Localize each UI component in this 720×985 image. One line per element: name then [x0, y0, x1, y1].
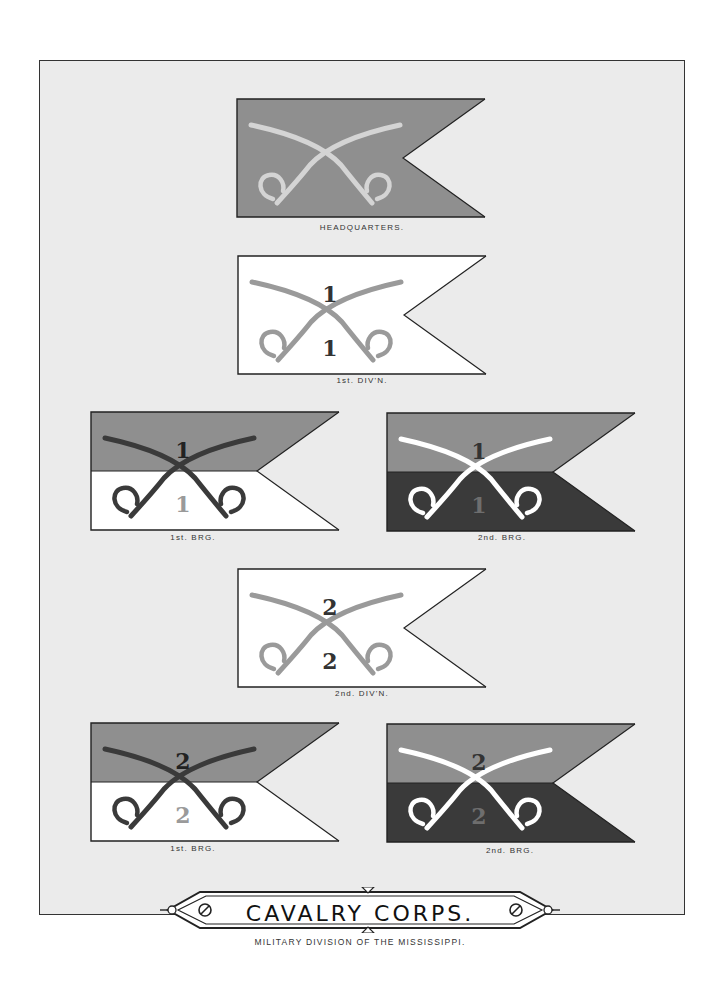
numeral-top: 2 — [322, 594, 337, 620]
caption-1st-div-2nd-brigade: 2nd. BRG. — [478, 533, 526, 542]
numeral-top: 2 — [175, 748, 190, 774]
guidon-flag-icon: 11 — [91, 412, 339, 530]
flag-headquarters — [237, 99, 485, 217]
numeral-bottom: 1 — [175, 491, 190, 517]
caption-2nd-div-1st-brigade: 1st. BRG. — [170, 844, 215, 853]
guidon-flag-icon: 22 — [387, 724, 635, 842]
title-banner: CAVALRY CORPS. — [160, 887, 560, 933]
flag-2nd-div-2nd-brigade: 22 — [387, 724, 635, 842]
flag-1st-div-2nd-brigade: 11 — [387, 413, 635, 531]
guidon-flag-icon — [237, 99, 485, 217]
caption-1st-div-1st-brigade: 1st. BRG. — [170, 533, 215, 542]
caption-1st-division: 1st. DIV'N. — [336, 376, 387, 385]
flag-1st-division: 11 — [238, 256, 486, 374]
caption-2nd-division: 2nd. DIV'N. — [335, 689, 389, 698]
flag-2nd-div-1st-brigade: 22 — [91, 723, 339, 841]
numeral-top: 1 — [471, 438, 486, 464]
guidon-flag-icon: 11 — [238, 256, 486, 374]
flag-1st-div-1st-brigade: 11 — [91, 412, 339, 530]
numeral-top: 2 — [471, 749, 486, 775]
numeral-bottom: 1 — [471, 492, 486, 518]
numeral-bottom: 2 — [175, 802, 190, 828]
caption-headquarters: HEADQUARTERS. — [320, 223, 404, 232]
guidon-flag-icon: 22 — [91, 723, 339, 841]
guidon-flag-icon: 11 — [387, 413, 635, 531]
numeral-top: 1 — [175, 437, 190, 463]
plate-title: CAVALRY CORPS. — [160, 901, 560, 926]
caption-2nd-div-2nd-brigade: 2nd. BRG. — [486, 846, 534, 855]
guidon-flag-icon: 22 — [238, 569, 486, 687]
numeral-top: 1 — [322, 281, 337, 307]
numeral-bottom: 2 — [471, 803, 486, 829]
numeral-bottom: 2 — [322, 648, 337, 674]
flag-2nd-division: 22 — [238, 569, 486, 687]
plate-subtitle: MILITARY DIVISION OF THE MISSISSIPPI. — [0, 937, 720, 947]
numeral-bottom: 1 — [322, 335, 337, 361]
